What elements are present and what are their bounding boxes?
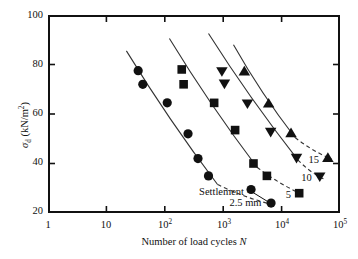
chart-canvas bbox=[0, 0, 358, 259]
fit-curves bbox=[126, 34, 331, 206]
chart-figure: 100 80 60 40 20 1 10 102 103 104 105 σd … bbox=[0, 0, 358, 259]
data-points bbox=[134, 65, 334, 208]
axis-ticks bbox=[48, 15, 340, 213]
